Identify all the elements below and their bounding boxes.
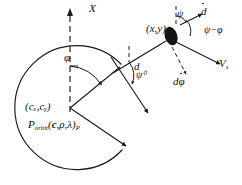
- phi-angle-arc: [70, 66, 102, 85]
- psi-minus-phi-angle-arc: [186, 20, 191, 36]
- x-axis-arrowhead-icon: [67, 8, 73, 16]
- d-dot-symbol: d: [201, 6, 207, 17]
- psi-angle-label: ψ: [177, 9, 183, 19]
- orbit-pattern-label: Porbit(c,ρ,λ)P: [28, 119, 80, 132]
- vs-base-symbol: V: [219, 57, 226, 69]
- orbit-pattern-subscript: orbit: [35, 124, 48, 131]
- d-dot-label: d: [201, 6, 207, 17]
- vs-velocity-label: Vs: [219, 58, 228, 71]
- psi-zero-angle-arc: [129, 62, 134, 84]
- psi-zero-label: ψ⁰: [136, 70, 146, 80]
- circle-center-label: (cₓ,cᵧ): [25, 101, 51, 112]
- d-dot-velocity-arrow: [180, 14, 202, 25]
- radius-arrow-upper: [70, 67, 120, 108]
- d-phidot-arrow: [172, 47, 186, 74]
- x-axis-label: X: [89, 3, 96, 14]
- target-point-label: (x,y): [146, 23, 166, 34]
- orbit-geometry-figure: X φ (cₓ,cᵧ) Porbit(c,ρ,λ)P d ψ⁰ (x,y) ψ …: [0, 0, 242, 185]
- orbit-pattern-symbol: P: [28, 118, 35, 130]
- tangent-heading-arrow: [111, 57, 148, 113]
- d-phidot-label: dφ: [173, 76, 185, 87]
- phi-angle-label: φ: [64, 52, 70, 63]
- vs-velocity-arrow: [176, 42, 220, 64]
- d-phidot-phi-symbol: φ: [179, 76, 185, 87]
- vs-subscript: s: [226, 63, 229, 70]
- psi-minus-phi-label: ψ−φ: [204, 25, 223, 35]
- orbit-pattern-trailing-subscript: P: [76, 124, 80, 131]
